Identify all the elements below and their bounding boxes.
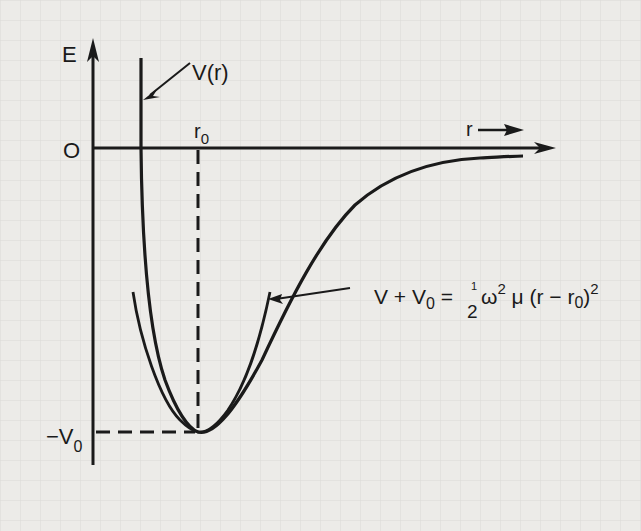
graph-paper-background [0, 0, 641, 531]
fraction-denominator: 2 [467, 301, 478, 322]
x-axis-label: r [466, 118, 473, 140]
svg-text:V + V0 =: V + V0 = [374, 285, 453, 312]
fraction-numerator: 1 [471, 280, 477, 292]
v-r-label: V(r) [192, 60, 229, 85]
potential-energy-diagram: E O r r0 −V0 [0, 0, 641, 531]
origin-label: O [63, 138, 80, 163]
y-axis-label: E [62, 42, 77, 67]
